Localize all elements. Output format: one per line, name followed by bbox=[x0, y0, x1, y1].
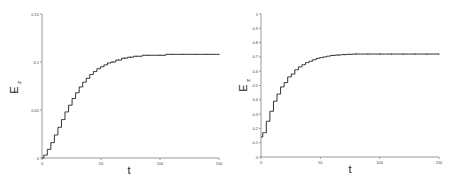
data-point bbox=[367, 53, 368, 54]
y-tick-label: 0.5 bbox=[252, 83, 258, 88]
y-tick-label: 0.3 bbox=[252, 112, 258, 117]
y-tick-label: 0.6 bbox=[252, 69, 258, 74]
x-tick-label: 150 bbox=[436, 160, 443, 165]
series-line bbox=[42, 54, 219, 158]
y-tick-label: 0.15 bbox=[31, 12, 40, 17]
y-axis-title-subscript: z bbox=[245, 79, 251, 82]
data-point bbox=[136, 56, 137, 57]
data-point bbox=[438, 53, 439, 54]
x-tick-label: 100 bbox=[376, 160, 383, 165]
data-point bbox=[118, 59, 119, 60]
x-tick-label: 150 bbox=[216, 161, 223, 166]
chart-right: t E z 05010015000.10.20.30.40.50.60.70.8… bbox=[237, 12, 443, 176]
y-axis-title-main: E bbox=[8, 86, 20, 93]
x-tick-label: 0 bbox=[260, 160, 263, 165]
y-axis-title-main: E bbox=[237, 84, 249, 91]
data-point bbox=[403, 53, 404, 54]
data-point bbox=[171, 54, 172, 55]
y-tick-label: 0.4 bbox=[252, 97, 258, 102]
y-tick-label: 0.9 bbox=[252, 26, 258, 31]
data-point bbox=[379, 53, 380, 54]
data-point bbox=[332, 55, 333, 56]
data-point bbox=[130, 57, 131, 58]
y-axis-title: E z bbox=[237, 79, 251, 92]
data-point bbox=[391, 53, 392, 54]
data-point bbox=[427, 53, 428, 54]
y-tick-label: 1 bbox=[256, 12, 259, 17]
y-tick-label: 0.05 bbox=[31, 108, 40, 113]
y-tick-label: 0 bbox=[37, 156, 40, 161]
data-point bbox=[355, 53, 356, 54]
x-axis-title: t bbox=[348, 163, 351, 175]
x-tick-label: 50 bbox=[99, 161, 104, 166]
x-tick-label: 0 bbox=[41, 161, 44, 166]
y-tick-label: 0 bbox=[256, 155, 259, 160]
data-point bbox=[183, 54, 184, 55]
y-tick-label: 0.1 bbox=[33, 60, 39, 65]
data-point bbox=[112, 61, 113, 62]
data-point bbox=[343, 54, 344, 55]
data-point bbox=[338, 54, 339, 55]
y-tick-label: 0.2 bbox=[252, 126, 258, 131]
chart-figure: t E z 05010015000.050.10.15 t E z 050100… bbox=[0, 0, 458, 179]
y-axis-title-subscript: z bbox=[16, 81, 22, 84]
y-axis-title: E z bbox=[8, 81, 22, 94]
data-point bbox=[218, 54, 219, 55]
x-tick-label: 50 bbox=[318, 160, 323, 165]
chart-left: t E z 05010015000.050.10.15 bbox=[8, 12, 223, 177]
data-point bbox=[159, 55, 160, 56]
data-point bbox=[148, 55, 149, 56]
y-tick-label: 0.1 bbox=[252, 140, 258, 145]
y-tick-label: 0.8 bbox=[252, 40, 258, 45]
data-point bbox=[124, 58, 125, 59]
data-point bbox=[207, 54, 208, 55]
y-tick-label: 0.7 bbox=[252, 54, 258, 59]
data-point bbox=[415, 53, 416, 54]
x-tick-label: 100 bbox=[157, 161, 164, 166]
data-point bbox=[349, 54, 350, 55]
series-line bbox=[261, 54, 439, 137]
data-point bbox=[195, 54, 196, 55]
x-axis-title: t bbox=[127, 164, 130, 176]
